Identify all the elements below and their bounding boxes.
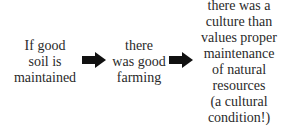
node-text: maintenance bbox=[196, 46, 282, 62]
node-text: farming bbox=[108, 70, 170, 86]
block-arrow-right-icon bbox=[82, 52, 106, 68]
node-text: soil is bbox=[10, 54, 80, 70]
node-text: there bbox=[108, 38, 170, 54]
node-text: values proper bbox=[196, 30, 282, 46]
node-text: (a cultural bbox=[196, 94, 282, 110]
node-good-farming: there was good farming bbox=[108, 38, 170, 86]
node-cultural-condition: there was a culture than values proper m… bbox=[196, 0, 282, 126]
node-text: of natural bbox=[196, 62, 282, 78]
block-arrow-right-icon bbox=[169, 52, 193, 68]
node-text: resources bbox=[196, 78, 282, 94]
node-good-soil: If good soil is maintained bbox=[10, 38, 80, 86]
node-text: If good bbox=[10, 38, 80, 54]
node-text: culture than bbox=[196, 14, 282, 30]
node-text: condition!) bbox=[196, 110, 282, 126]
node-text: was good bbox=[108, 54, 170, 70]
node-text: there was a bbox=[196, 0, 282, 14]
node-text: maintained bbox=[10, 70, 80, 86]
